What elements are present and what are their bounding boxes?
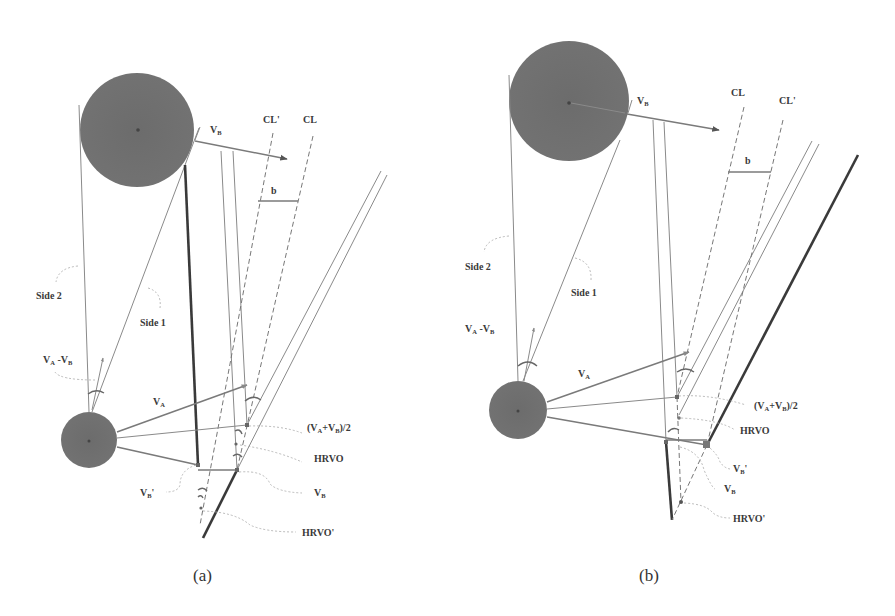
apex-angle-arc-2 (668, 428, 679, 432)
b-label: b (271, 185, 277, 196)
hrvo-leader (681, 418, 735, 430)
apex-angle-arc-4 (198, 488, 207, 491)
apex-angle-arc-2 (235, 430, 242, 434)
caption-b: (b) (639, 566, 659, 585)
cl-prime-label: CL' (263, 114, 280, 125)
vb-prime-line (117, 447, 198, 465)
va-label: VA (578, 368, 590, 380)
avg-velocity-label: (VA+VB)/2 (754, 400, 798, 412)
rvo-diagonal-2 (679, 144, 819, 415)
rvo-side-line-1 (653, 120, 666, 442)
side1-leader (148, 288, 160, 308)
hrvo-prime-thick (666, 442, 672, 520)
hrvo-label: HRVO (740, 425, 770, 436)
agent-a-center-dot (517, 410, 520, 413)
hrvo-prime-point (199, 506, 202, 509)
vb-prime-label: VB' (140, 487, 155, 499)
vb-point (703, 441, 710, 448)
va-minus-vb-leader (55, 372, 95, 380)
vb-prime-leader (710, 448, 730, 469)
b-label: b (745, 155, 751, 166)
panel-b: VB CL CL' b Side 2 Side 1 VA -VB VA (VA+… (465, 41, 858, 585)
va-minus-vb-arrow (524, 328, 534, 381)
vo-boundary-thick (707, 155, 858, 445)
side2-label: Side 2 (465, 261, 491, 272)
hrvo-diagram-figure: VB CL' CL b Side 2 Side 1 VA -VB VA (VA+… (0, 0, 895, 616)
vb-leader (680, 447, 715, 489)
caption-a: (a) (193, 566, 212, 585)
vb-tick (195, 127, 200, 140)
side2-leader (56, 266, 78, 282)
rvo-side-line-2 (233, 151, 247, 425)
hrvo-label: HRVO (314, 453, 344, 464)
va-arrow (547, 352, 689, 402)
vb-prime-line (547, 417, 707, 445)
va-minus-vb-label: VA -VB (43, 354, 73, 366)
vb-arrow (627, 114, 719, 130)
va-minus-vb-arrow (92, 358, 103, 410)
vb-label-top: VB (637, 95, 649, 107)
apex-angle-arc-1 (245, 397, 261, 401)
vb-prime-leader (166, 465, 196, 492)
hrvo-point (234, 442, 237, 445)
va-minus-vb-label: VA -VB (465, 323, 495, 335)
vb-label-top: VB (210, 124, 222, 136)
avg-leader (679, 396, 746, 405)
side1-line (523, 140, 620, 381)
panel-a: VB CL' CL b Side 2 Side 1 VA -VB VA (VA+… (36, 73, 387, 585)
side1-leader (575, 258, 591, 280)
rvo-side-line-1 (221, 151, 237, 470)
agent-b-circle (509, 41, 629, 161)
apex-angle-arc-3 (233, 454, 242, 457)
apex-angle-arc-5 (198, 496, 203, 498)
hrvo-point (677, 416, 681, 420)
hrvo-prime-label: HRVO' (733, 513, 765, 524)
avg-velocity-line (547, 397, 677, 409)
avg-velocity-label: (VA+VB)/2 (307, 422, 351, 434)
cl-prime-dashed (707, 120, 783, 445)
vb-arrow (195, 141, 287, 159)
avg-leader (249, 426, 302, 433)
agent-b-center-dot (567, 101, 571, 105)
cl-prime-label: CL' (779, 95, 796, 106)
vo-boundary-thick (185, 165, 198, 465)
hrvo-prime-dashed-2 (672, 445, 707, 520)
hrvo-prime-point (679, 500, 683, 504)
vb-label: VB (724, 483, 736, 495)
agent-b-center-dot (136, 128, 140, 132)
avg-point (675, 395, 679, 399)
hrvo-prime-leader (203, 511, 296, 532)
cl-label: CL (303, 114, 317, 125)
side1-label: Side 1 (571, 287, 597, 298)
vb-leader (239, 472, 302, 493)
avg-velocity-line (117, 425, 247, 438)
vb-prime-label: VB' (733, 463, 748, 475)
side2-label: Side 2 (36, 290, 62, 301)
hrvo-leader (240, 445, 302, 462)
side2-leader (484, 236, 509, 252)
vb-prime-point (664, 440, 668, 444)
rvo-side-line-2 (664, 122, 677, 397)
hrvo-prime-label: HRVO' (302, 527, 334, 538)
va-arrow (117, 385, 247, 432)
vb-prime-point (196, 463, 200, 467)
agent-a-center-dot (88, 440, 91, 443)
avg-point (245, 423, 249, 427)
vb-label: VB (314, 487, 326, 499)
rvo-diagonal-1 (677, 141, 812, 397)
vb-point (235, 468, 239, 472)
rvo-diagonal-1 (247, 171, 381, 425)
side1-label: Side 1 (140, 317, 166, 328)
cl-label: CL (731, 87, 745, 98)
hrvo-prime-leader (684, 503, 730, 518)
va-label: VA (153, 396, 165, 408)
